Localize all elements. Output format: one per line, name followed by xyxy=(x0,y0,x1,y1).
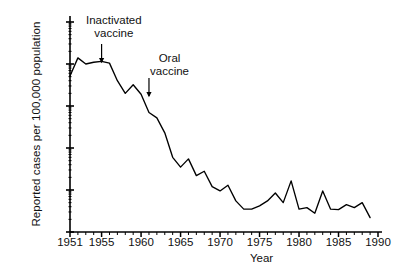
x-tick-label: 1955 xyxy=(89,236,115,248)
x-tick-label: 1975 xyxy=(247,236,273,248)
x-tick-label: 1970 xyxy=(207,236,233,248)
data-series-line xyxy=(70,58,370,218)
x-tick-label: 1990 xyxy=(365,236,391,248)
x-tick-label: 1985 xyxy=(326,236,352,248)
polio-incidence-chart: Reported cases per 100,000 population 10… xyxy=(0,0,403,277)
axis-lines xyxy=(70,16,382,232)
annotation-arrows xyxy=(99,44,152,97)
x-tick-label: 1960 xyxy=(128,236,154,248)
x-tick-label: 1965 xyxy=(168,236,194,248)
x-tick-label: 1980 xyxy=(286,236,312,248)
x-tick-label: 1951 xyxy=(57,236,83,248)
arrow-oral-vaccine-head xyxy=(146,92,151,97)
